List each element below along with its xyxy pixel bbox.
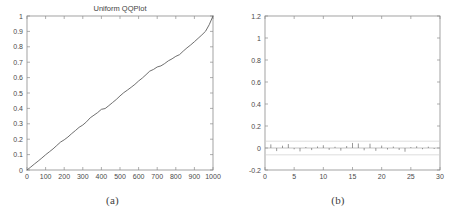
x-tick-label: 0 bbox=[25, 173, 29, 180]
y-tick-label: 0.8 bbox=[251, 57, 261, 64]
x-tick-label: 900 bbox=[189, 173, 201, 180]
x-tick-label: 800 bbox=[170, 173, 182, 180]
x-tick-label: 1000 bbox=[205, 173, 221, 180]
y-tick-label: -0.2 bbox=[249, 167, 261, 174]
y-tick-label: 0.9 bbox=[13, 28, 23, 35]
y-tick-label: 0 bbox=[257, 145, 261, 152]
x-tick-label: 0 bbox=[263, 173, 267, 180]
x-tick-label: 600 bbox=[133, 173, 145, 180]
y-tick-label: 0.2 bbox=[251, 123, 261, 130]
y-tick-label: 0.7 bbox=[13, 59, 23, 66]
x-tick-label: 25 bbox=[407, 173, 415, 180]
x-tick-label: 20 bbox=[378, 173, 386, 180]
x-tick-label: 30 bbox=[436, 173, 444, 180]
plot-title: Uniform QQPlot bbox=[94, 4, 148, 13]
y-tick-label: 0.4 bbox=[251, 101, 261, 108]
panel-b-caption: (b) bbox=[225, 194, 451, 206]
x-tick-label: 10 bbox=[319, 173, 327, 180]
x-tick-label: 200 bbox=[58, 173, 70, 180]
y-tick-label: 0.6 bbox=[251, 79, 261, 86]
y-tick-label: 0.2 bbox=[13, 136, 23, 143]
y-tick-label: 0.1 bbox=[13, 151, 23, 158]
x-tick-label: 100 bbox=[40, 173, 52, 180]
panel-a-caption: (a) bbox=[0, 194, 225, 206]
x-tick-label: 400 bbox=[96, 173, 108, 180]
y-tick-label: 0.5 bbox=[13, 90, 23, 97]
x-tick-label: 700 bbox=[151, 173, 163, 180]
x-tick-label: 5 bbox=[292, 173, 296, 180]
x-tick-label: 15 bbox=[349, 173, 357, 180]
x-tick-label: 300 bbox=[77, 173, 89, 180]
qqplot-chart: 0100200300400500600700800900100000.10.20… bbox=[0, 0, 225, 190]
y-tick-label: 1 bbox=[257, 35, 261, 42]
panel-b-autocorrelation: 051015202530-0.200.20.40.60.811.2 (b) bbox=[225, 0, 451, 216]
y-tick-label: 0.3 bbox=[13, 120, 23, 127]
y-tick-label: 0.8 bbox=[13, 43, 23, 50]
x-tick-label: 500 bbox=[114, 173, 126, 180]
figure-container: 0100200300400500600700800900100000.10.20… bbox=[0, 0, 451, 216]
qq-data-line bbox=[27, 16, 213, 170]
y-tick-label: 1.2 bbox=[251, 13, 261, 20]
y-tick-label: 1 bbox=[19, 13, 23, 20]
y-tick-label: 0 bbox=[19, 167, 23, 174]
autocorrelation-chart: 051015202530-0.200.20.40.60.811.2 bbox=[225, 0, 451, 190]
y-tick-label: 0.6 bbox=[13, 74, 23, 81]
y-tick-label: 0.4 bbox=[13, 105, 23, 112]
panel-a-uniform-qqplot: 0100200300400500600700800900100000.10.20… bbox=[0, 0, 225, 216]
